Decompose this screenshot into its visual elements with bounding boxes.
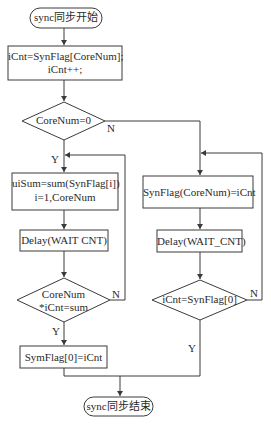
right-set-label: SynFlag(CoreNum)=iCnt [143,186,253,199]
init-line1: iCnt=SynFlag[CoreNum]; [8,50,122,63]
left-decision-line2: *iCnt=sum [17,301,110,314]
right-decision-label: iCnt=SynFlag[0] [152,293,247,306]
decision-main-yes: Y [51,153,59,165]
left-decision-yes: Y [52,325,60,337]
init-line2: iCnt++; [8,63,122,76]
start-label: sync同步开始 [30,11,102,24]
connector-right-loop-no [201,153,262,300]
left-decision-no: N [112,288,120,300]
left-delay-label: Delay(WAIT CNT) [20,234,108,247]
end-label: sync同步结束 [84,400,153,413]
left-set-label: SymFlag[0]=iCnt [20,351,107,364]
decision-main-label: CoreNum=0 [22,114,105,127]
connector-main-no [105,121,200,175]
left-sum-line1: uiSum=sum(SynFlag[i]) [12,177,118,190]
decision-main-no: N [107,122,115,134]
right-delay-label: Delay(WAIT_CNT) [157,235,242,248]
left-sum-line2: i=1,CoreNum [12,191,118,204]
left-decision-line1: CoreNum [17,288,110,301]
right-decision-no: N [250,287,258,299]
right-decision-yes: Y [188,342,196,354]
